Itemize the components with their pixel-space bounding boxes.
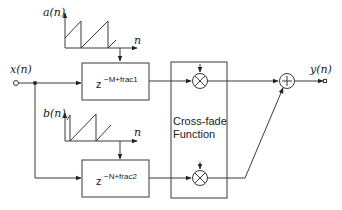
b-signal-label: b(n): [43, 107, 66, 120]
mult2-to-adder-wire: [208, 88, 284, 178]
delay2-base: z: [96, 175, 102, 187]
delay-block-1: z −M+frac1: [82, 63, 149, 100]
control-signal-a: a(n) n: [43, 6, 141, 61]
delay-block-2: z −N+frac2: [82, 160, 149, 197]
input-terminal-icon: [14, 81, 19, 86]
cross-fade-diagram: x(n) a(n) n z −M+frac1 b(n) n z −N+frac2: [0, 0, 342, 210]
b-axis-n-label: n: [134, 126, 141, 139]
input-node: x(n): [10, 63, 37, 86]
output-terminal-icon: [324, 80, 327, 83]
delay2-exponent: −N+frac2: [104, 172, 137, 181]
a-signal-label: a(n): [43, 6, 65, 19]
b-sawtooth-wave: [67, 114, 111, 141]
crossfade-label-line1: Cross-fade: [173, 115, 227, 127]
control-signal-b: b(n) n: [43, 107, 141, 159]
delay1-base: z: [96, 78, 102, 90]
output-node: y(n): [295, 63, 332, 83]
crossfade-label-line2: Function: [173, 128, 215, 140]
delay1-exponent: −M+frac1: [104, 75, 138, 84]
wire-to-delay2: [35, 83, 81, 178]
a-axis-n-label: n: [134, 34, 141, 47]
multiplier-2: [193, 162, 208, 186]
input-label: x(n): [10, 63, 32, 76]
adder: [280, 74, 295, 89]
output-label: y(n): [309, 63, 332, 76]
a-sawtooth-wave: [65, 21, 116, 48]
multiplier-1: [193, 64, 208, 89]
